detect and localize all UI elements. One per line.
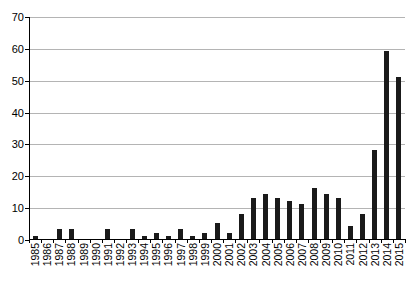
x-axis-tick-label: 2002 bbox=[236, 243, 247, 266]
bar bbox=[396, 77, 401, 239]
x-axis-tick-label: 2008 bbox=[309, 243, 320, 266]
x-axis-tick-label: 1986 bbox=[42, 243, 53, 266]
y-axis-tick-label: 50 bbox=[12, 75, 24, 86]
x-axis-tick-label: 2009 bbox=[321, 243, 332, 266]
x-axis-tick-label: 2007 bbox=[297, 243, 308, 266]
y-axis-tick-label: 30 bbox=[12, 139, 24, 150]
bar bbox=[384, 51, 389, 239]
x-axis-tick-label: 1985 bbox=[30, 243, 41, 266]
bar bbox=[275, 198, 280, 239]
y-axis-tick-label: 10 bbox=[12, 203, 24, 214]
x-axis-line bbox=[29, 239, 405, 240]
bar bbox=[324, 194, 329, 239]
y-axis-tick-label: 0 bbox=[18, 235, 24, 246]
bar bbox=[69, 229, 74, 239]
bar bbox=[239, 214, 244, 239]
bar bbox=[105, 229, 110, 239]
y-axis-tick-label: 60 bbox=[12, 43, 24, 54]
x-axis-tick-mark bbox=[405, 239, 406, 243]
y-axis-tick-label: 70 bbox=[12, 12, 24, 23]
bar bbox=[299, 204, 304, 239]
x-axis-tick-label: 1988 bbox=[66, 243, 77, 266]
bars-layer bbox=[29, 17, 405, 239]
bar bbox=[178, 229, 183, 239]
x-axis-tick-label: 2012 bbox=[358, 243, 369, 266]
x-axis-tick-label: 2010 bbox=[333, 243, 344, 266]
x-axis-tick-label: 2004 bbox=[261, 243, 272, 266]
x-axis-tick-label: 2015 bbox=[394, 243, 405, 266]
y-axis-tick-label: 20 bbox=[12, 171, 24, 182]
x-axis-tick-label: 2013 bbox=[370, 243, 381, 266]
x-axis-tick-label: 2014 bbox=[382, 243, 393, 266]
x-axis-tick-label: 1997 bbox=[176, 243, 187, 266]
x-axis-tick-label: 1993 bbox=[127, 243, 138, 266]
bar bbox=[312, 188, 317, 239]
x-axis-tick-label: 1989 bbox=[79, 243, 90, 266]
bar bbox=[360, 214, 365, 239]
x-axis-tick-label: 2001 bbox=[224, 243, 235, 266]
y-axis-tick-labels: 010203040506070 bbox=[0, 0, 24, 281]
y-axis-tick-label: 40 bbox=[12, 107, 24, 118]
bar bbox=[263, 194, 268, 239]
x-axis-tick-label: 1998 bbox=[188, 243, 199, 266]
bar bbox=[348, 226, 353, 239]
x-axis-tick-label: 1990 bbox=[91, 243, 102, 266]
x-axis-tick-labels: 1985198619871988198919901991199219931994… bbox=[29, 243, 405, 281]
bar-chart: 010203040506070 198519861987198819891990… bbox=[0, 0, 413, 281]
x-axis-tick-label: 1991 bbox=[103, 243, 114, 266]
x-axis-tick-label: 1999 bbox=[200, 243, 211, 266]
bar bbox=[251, 198, 256, 239]
bar bbox=[57, 229, 62, 239]
x-axis-tick-label: 1992 bbox=[115, 243, 126, 266]
x-axis-tick-label: 1987 bbox=[54, 243, 65, 266]
bar bbox=[130, 229, 135, 239]
x-axis-tick-label: 2006 bbox=[285, 243, 296, 266]
plot-area bbox=[29, 17, 405, 240]
bar bbox=[336, 198, 341, 239]
x-axis-tick-label: 2011 bbox=[345, 243, 356, 266]
x-axis-tick-label: 1994 bbox=[139, 243, 150, 266]
x-axis-tick-label: 2000 bbox=[212, 243, 223, 266]
bar bbox=[215, 223, 220, 239]
x-axis-tick-label: 2005 bbox=[273, 243, 284, 266]
bar bbox=[372, 150, 377, 239]
x-axis-tick-label: 2003 bbox=[248, 243, 259, 266]
bar bbox=[287, 201, 292, 239]
x-axis-tick-label: 1996 bbox=[163, 243, 174, 266]
x-axis-tick-label: 1995 bbox=[151, 243, 162, 266]
